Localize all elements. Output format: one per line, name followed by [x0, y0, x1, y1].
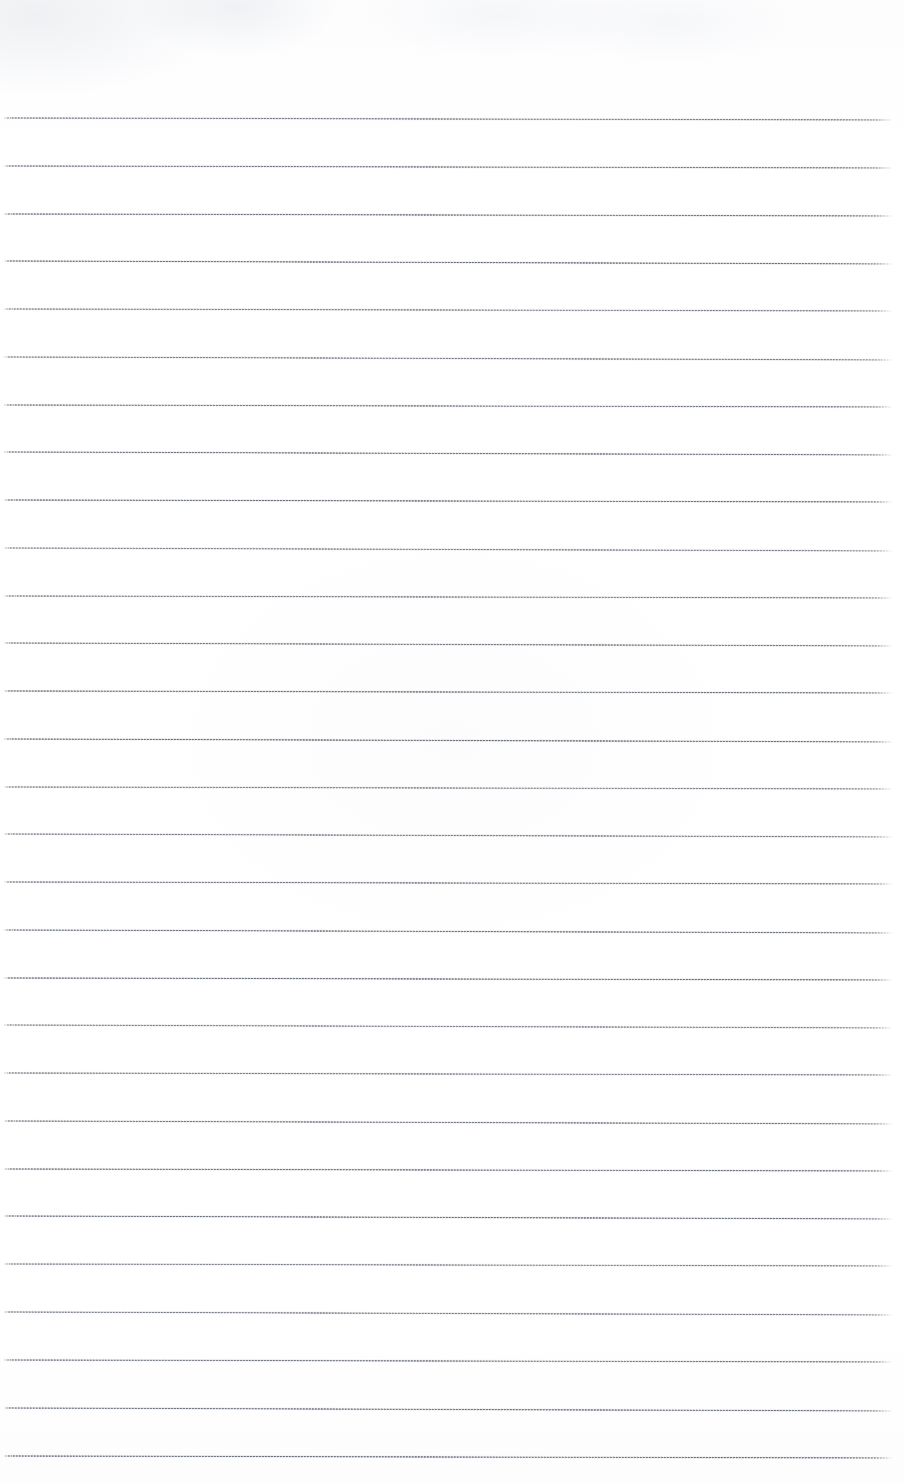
ruled-line — [3, 977, 893, 981]
ruled-line — [3, 1359, 893, 1363]
ruled-line — [3, 356, 893, 361]
ruled-line — [3, 595, 893, 599]
ruled-line — [3, 451, 893, 456]
ruled-line — [3, 213, 893, 217]
ruled-line — [3, 642, 893, 647]
ruled-line — [3, 499, 893, 503]
ruled-line — [3, 1120, 893, 1125]
ruled-line — [3, 1407, 893, 1412]
ruled-line — [3, 738, 893, 743]
ruled-line — [3, 1215, 893, 1220]
ruled-line — [3, 308, 893, 312]
ruled-line — [3, 547, 893, 552]
ruled-line — [3, 833, 893, 838]
ruled-line — [3, 881, 893, 885]
ruled-line — [3, 929, 893, 934]
ruled-line — [3, 1455, 893, 1459]
ruled-line — [3, 1024, 893, 1029]
ruled-lines-group — [0, 0, 904, 1483]
ruled-line — [3, 404, 893, 408]
ruled-line — [3, 1168, 893, 1172]
ruled-line — [3, 1072, 893, 1076]
scanned-page — [0, 0, 904, 1483]
ruled-line — [3, 260, 893, 265]
ruled-line — [3, 165, 893, 169]
ruled-line — [3, 1263, 893, 1267]
ruled-line — [3, 786, 893, 790]
ruled-line — [3, 690, 893, 694]
ruled-line — [3, 1311, 893, 1316]
ruled-line — [3, 117, 893, 121]
